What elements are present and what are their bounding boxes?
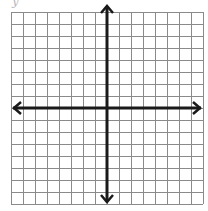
coordinate-grid: [0, 0, 208, 211]
